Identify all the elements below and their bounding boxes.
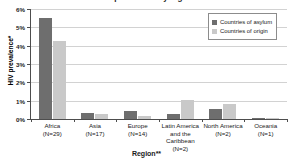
bar-group bbox=[31, 9, 74, 119]
y-axis-tick-mark bbox=[27, 46, 30, 47]
bar bbox=[124, 111, 137, 119]
x-axis-category-label: Latin Americaand the Caribbean(N=2) bbox=[159, 122, 202, 152]
bar bbox=[167, 114, 180, 119]
x-axis-category-line: Africa bbox=[31, 122, 74, 130]
bar bbox=[181, 100, 194, 119]
y-axis-tick-mark bbox=[27, 119, 30, 120]
chart-legend: Countries of asylum Countries of origin bbox=[208, 13, 277, 40]
x-axis-category-line: and the Caribbean bbox=[159, 130, 202, 145]
x-axis-category-line: Latin America bbox=[159, 122, 202, 130]
y-axis-tick-mark bbox=[27, 101, 30, 102]
x-axis-category-line: (N=2) bbox=[202, 130, 245, 138]
y-axis-tick-mark bbox=[27, 27, 30, 28]
chart-figure: HIV prevalence by region HIV prevalence*… bbox=[0, 0, 293, 162]
bar-group bbox=[159, 9, 202, 119]
x-axis-category-line: Asia bbox=[74, 122, 117, 130]
y-axis-tick-label: 6% bbox=[16, 6, 25, 13]
x-axis-category-labels: Africa(N=29)Asia(N=17)Europe(N=14)Latin … bbox=[31, 122, 287, 152]
x-axis-category-label: Europe(N=14) bbox=[116, 122, 159, 137]
x-axis-category-line: (N=29) bbox=[31, 130, 74, 138]
y-axis-tick-mark bbox=[27, 9, 30, 10]
bar bbox=[81, 113, 94, 119]
x-axis-category-label: Oceania(N=1) bbox=[244, 122, 287, 137]
chart-title-cropped: HIV prevalence by region bbox=[0, 0, 293, 6]
bar bbox=[95, 114, 108, 120]
bar bbox=[39, 18, 52, 119]
bar bbox=[53, 41, 66, 119]
y-axis-tick-mark bbox=[27, 64, 30, 65]
x-axis-category-line: (N=1) bbox=[244, 130, 287, 138]
legend-swatch-asylum-icon bbox=[212, 20, 217, 25]
x-axis-title: Region** bbox=[0, 150, 293, 157]
x-axis-category-label: Asia(N=17) bbox=[74, 122, 117, 137]
x-axis-category-label: Africa(N=29) bbox=[31, 122, 74, 137]
legend-label-origin: Countries of origin bbox=[220, 28, 268, 34]
y-axis-tick-label: 1% bbox=[16, 97, 25, 104]
bar bbox=[252, 118, 265, 119]
x-axis-category-line: (N=17) bbox=[74, 130, 117, 138]
y-axis-tick-mark bbox=[27, 82, 30, 83]
chart-title: HIV prevalence by region bbox=[0, 0, 293, 2]
y-axis-tick-label: 0% bbox=[16, 116, 25, 123]
bar-group bbox=[74, 9, 117, 119]
legend-item-asylum: Countries of asylum bbox=[212, 18, 272, 26]
bar bbox=[266, 118, 279, 119]
bar bbox=[138, 116, 151, 119]
bar-group bbox=[116, 9, 159, 119]
x-axis-category-line: Oceania bbox=[244, 122, 287, 130]
y-axis-tick-label: 4% bbox=[16, 42, 25, 49]
x-axis-category-line: Europe bbox=[116, 122, 159, 130]
x-axis-tick-mark bbox=[287, 119, 288, 122]
y-axis-title: HIV prevalence* bbox=[7, 13, 14, 109]
legend-label-asylum: Countries of asylum bbox=[220, 19, 272, 25]
legend-swatch-origin-icon bbox=[212, 29, 217, 34]
y-axis-tick-label: 2% bbox=[16, 79, 25, 86]
bar bbox=[209, 109, 222, 119]
x-axis-category-label: North America(N=2) bbox=[202, 122, 245, 137]
x-axis-category-line: (N=14) bbox=[116, 130, 159, 138]
bar bbox=[223, 104, 236, 119]
legend-item-origin: Countries of origin bbox=[212, 27, 272, 35]
y-axis-tick-label: 5% bbox=[16, 24, 25, 31]
y-axis-tick-label: 3% bbox=[16, 61, 25, 68]
x-axis-category-line: North America bbox=[202, 122, 245, 130]
